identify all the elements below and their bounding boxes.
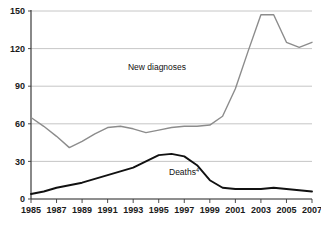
x-tick-label-1989: 1989 — [72, 205, 92, 215]
y-tick-label-90: 90 — [15, 81, 25, 91]
series-label-superscript: 4 — [196, 167, 199, 173]
y-tick-label-60: 60 — [15, 119, 25, 129]
x-tick-label-1987: 1987 — [47, 205, 67, 215]
y-tick-label-150: 150 — [10, 6, 25, 16]
x-tick-label-1991: 1991 — [98, 205, 118, 215]
x-tick-label-2003: 2003 — [251, 205, 271, 215]
x-tick-label-2001: 2001 — [225, 205, 245, 215]
y-tick-label-0: 0 — [20, 194, 25, 204]
chart-background — [0, 0, 321, 225]
series-label-deaths: Deaths4 — [169, 167, 199, 177]
y-tick-label-30: 30 — [15, 157, 25, 167]
x-tick-label-1995: 1995 — [149, 205, 169, 215]
x-tick-label-1999: 1999 — [200, 205, 220, 215]
x-tick-label-1997: 1997 — [174, 205, 194, 215]
x-tick-label-1993: 1993 — [123, 205, 143, 215]
x-tick-label-1985: 1985 — [21, 205, 41, 215]
line-chart: 0306090120150 19851987198919911993199519… — [0, 0, 321, 225]
x-tick-label-2005: 2005 — [276, 205, 296, 215]
series-label-new-diagnoses: New diagnoses — [128, 62, 186, 72]
x-tick-label-2007: 2007 — [302, 205, 321, 215]
chart-container: 0306090120150 19851987198919911993199519… — [0, 0, 321, 225]
y-tick-label-120: 120 — [10, 44, 25, 54]
